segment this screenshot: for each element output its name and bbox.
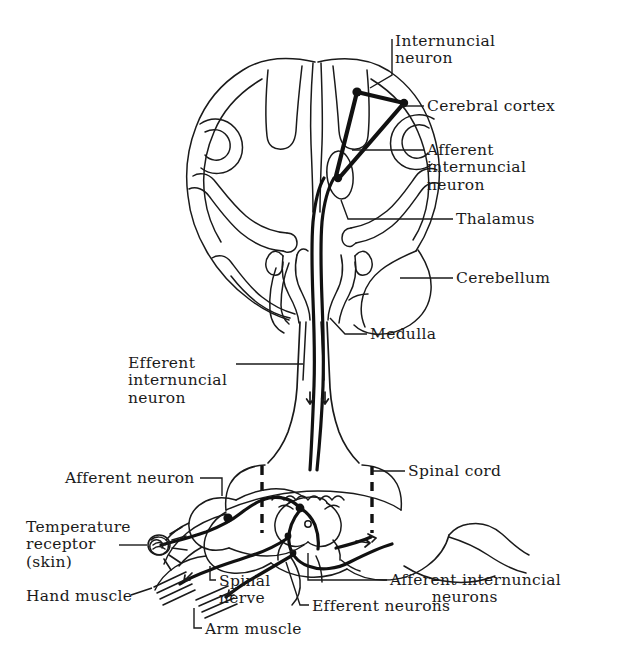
label-hand-muscle: Hand muscle	[26, 588, 132, 605]
leader-afferent-neuron	[200, 478, 222, 496]
synapse-node-cortex-apex	[352, 87, 361, 96]
label-afferent-neuron: Afferent neuron	[65, 470, 195, 487]
label-internuncial-neuron: Internuncial neuron	[395, 33, 495, 68]
label-temperature-receptor: Temperature receptor (skin)	[26, 519, 131, 571]
label-spinal-nerve: Spinal nerve	[219, 573, 270, 608]
leader-arm-muscle	[194, 608, 202, 628]
label-arm-muscle: Arm muscle	[205, 621, 302, 638]
central-canal	[305, 521, 311, 527]
label-medulla: Medulla	[370, 326, 436, 343]
diagram-page: .thin { fill:none; stroke:#1a1a1a; strok…	[0, 0, 629, 659]
label-cerebellum: Cerebellum	[456, 270, 550, 287]
leader-medulla	[330, 318, 367, 334]
label-afferent-internuncial-neurons: Afferent internuncial neurons	[390, 572, 561, 607]
leader-hand-muscle	[131, 588, 152, 595]
label-spinal-cord: Spinal cord	[408, 463, 501, 480]
label-cerebral-cortex: Cerebral cortex	[427, 98, 555, 115]
label-efferent-internuncial-neuron: Efferent internuncial neuron	[128, 355, 227, 407]
label-thalamus: Thalamus	[456, 211, 535, 228]
temperature-receptor-glyph	[148, 527, 187, 570]
label-afferent-internuncial-neuron: Afferent internuncial neuron	[427, 142, 526, 194]
dorsal-root-ganglion-node	[223, 513, 232, 522]
synapse-node-thalamus	[334, 174, 342, 182]
